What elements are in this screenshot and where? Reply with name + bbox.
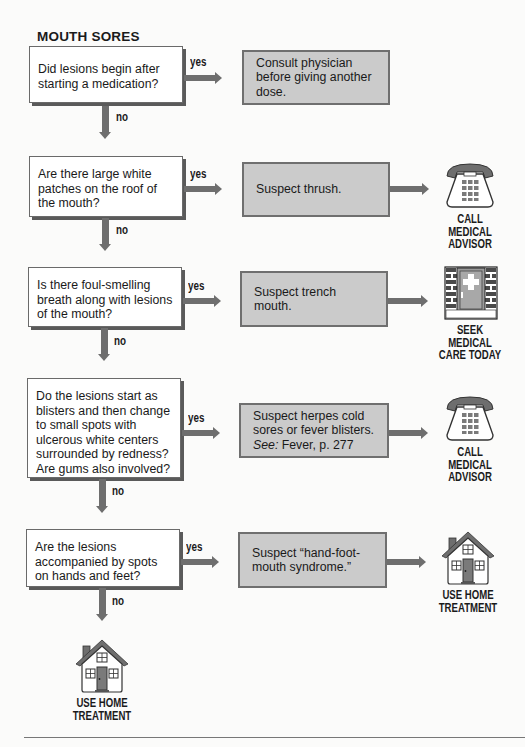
telephone-icon <box>441 162 499 210</box>
no-arrow-1 <box>102 106 109 132</box>
see-label: See: <box>253 438 278 452</box>
outcome-label-2: CALL MEDICAL ADVISOR <box>430 213 510 251</box>
outcome-arrow-3 <box>388 298 421 304</box>
outcome-label-line: USE HOME <box>428 589 508 602</box>
no-label-4: no <box>112 484 124 498</box>
answer-reference-4: See: Fever, p. 277 <box>253 438 375 453</box>
no-arrow-5 <box>99 588 106 614</box>
yes-label-1: yes <box>190 55 206 69</box>
outcome-label-line: USE HOME <box>62 697 142 710</box>
outcome-arrow-4 <box>389 430 421 436</box>
yes-label-5: yes <box>186 540 202 554</box>
yes-arrow-5 <box>181 559 212 565</box>
question-box-2: Are there large white patches on the roo… <box>29 156 183 217</box>
outcome-label-line: TREATMENT <box>428 602 508 615</box>
answer-box-5: Suspect “hand-foot-mouth syndrome.” <box>238 532 387 588</box>
answer-box-4: Suspect herpes cold sores or fever blist… <box>239 403 389 458</box>
yes-arrow-2 <box>184 186 215 192</box>
hospital-door-icon <box>444 266 498 320</box>
yes-arrow-1 <box>184 75 215 81</box>
outcome-label-line: ADVISOR <box>430 471 510 484</box>
question-box-1: Did lesions begin after starting a medic… <box>29 46 183 103</box>
page-bottom-rule <box>24 737 525 738</box>
outcome-label-line: ADVISOR <box>430 238 510 251</box>
outcome-label-line: TREATMENT <box>62 710 142 723</box>
no-label-3: no <box>114 334 126 348</box>
house-icon <box>74 638 130 694</box>
yes-arrow-4 <box>182 430 213 436</box>
question-box-4: Do the lesions start as blisters and the… <box>27 378 181 478</box>
outcome-label-line: SEEK <box>430 324 510 337</box>
flowchart-title: MOUTH SORES <box>37 29 140 44</box>
yes-label-4: yes <box>188 411 204 425</box>
no-arrow-3 <box>101 328 108 354</box>
no-label-5: no <box>112 594 124 608</box>
answer-box-2: Suspect thrush. <box>242 162 390 217</box>
outcome-label-line: CARE TODAY <box>430 349 510 362</box>
outcome-arrow-5 <box>387 559 419 565</box>
outcome-arrow-2 <box>390 186 422 192</box>
yes-arrow-3 <box>183 298 214 304</box>
outcome-label-4: CALL MEDICAL ADVISOR <box>430 446 510 484</box>
answer-text-4: Suspect herpes cold sores or fever blist… <box>253 409 375 438</box>
answer-box-1: Consult physician before giving another … <box>242 50 390 105</box>
outcome-label-line: CALL <box>430 213 510 226</box>
no-arrow-4 <box>99 479 106 506</box>
outcome-label-5: USE HOME TREATMENT <box>428 589 508 614</box>
cross-reference-link[interactable]: Fever, p. 277 <box>282 438 354 452</box>
house-icon <box>440 530 496 586</box>
telephone-icon <box>441 395 499 443</box>
answer-box-3: Suspect trench mouth. <box>240 271 388 327</box>
final-outcome-label: USE HOME TREATMENT <box>62 697 142 722</box>
yes-label-2: yes <box>190 167 206 181</box>
yes-label-3: yes <box>188 279 204 293</box>
no-label-2: no <box>116 223 128 237</box>
no-label-1: no <box>116 110 128 124</box>
outcome-label-3: SEEK MEDICAL CARE TODAY <box>430 324 510 362</box>
question-box-5: Are the lesions accompanied by spots on … <box>26 529 180 587</box>
outcome-label-line: CALL <box>430 446 510 459</box>
no-arrow-2 <box>102 218 109 244</box>
question-box-3: Is there foul-smelling breath along with… <box>28 267 182 327</box>
